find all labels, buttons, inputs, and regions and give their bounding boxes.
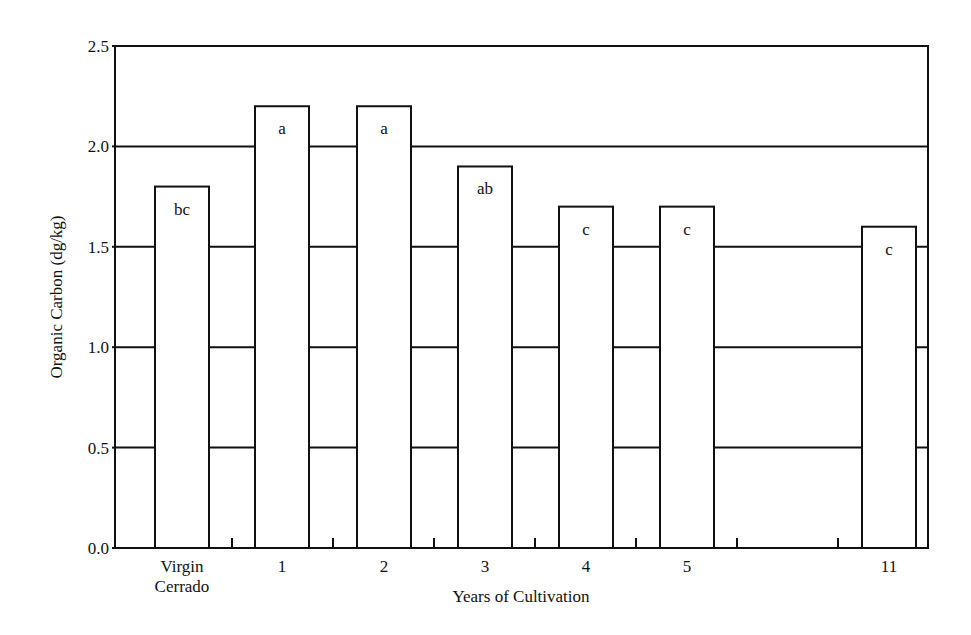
bar [559,207,613,548]
bar-significance-label: ab [477,179,493,198]
x-tick-label: Cerrado [155,577,210,596]
x-tick-label: 11 [881,557,897,576]
bar-group: c [862,227,916,548]
y-axis-title: Organic Carbon (dg/kg) [47,215,66,378]
y-axis-ticks: 0.00.51.01.52.02.5 [88,37,115,558]
x-tick-label: 5 [683,557,692,576]
plot-frame [115,46,928,548]
x-tick-label: Virgin [160,557,204,576]
y-tick-label: 0.5 [88,439,109,458]
x-axis-title: Years of Cultivation [452,587,590,606]
bar [357,106,411,548]
y-tick-label: 0.0 [88,539,109,558]
x-tick-label: 3 [481,557,490,576]
bar-group: a [357,106,411,548]
bars: bcaaabccc [155,106,916,548]
bar-group: bc [155,187,209,548]
bar-chart: bcaaabccc 0.00.51.01.52.02.5 VirginCerra… [0,0,971,635]
y-tick-label: 1.0 [88,338,109,357]
bar [660,207,714,548]
plot-border [115,46,928,548]
bar [458,166,512,548]
y-tick-label: 2.0 [88,137,109,156]
bar-significance-label: c [885,240,893,259]
bar-significance-label: bc [174,200,191,219]
bar-significance-label: c [683,220,691,239]
bar-group: c [559,207,613,548]
bar [862,227,916,548]
bar-group: a [255,106,309,548]
y-tick-label: 1.5 [88,238,109,257]
bar [155,187,209,548]
bar [255,106,309,548]
bar-significance-label: a [278,119,286,138]
x-tick-label: 1 [278,557,287,576]
y-tick-label: 2.5 [88,37,109,56]
x-tick-label: 2 [380,557,389,576]
bar-group: c [660,207,714,548]
bar-significance-label: c [582,220,590,239]
bar-significance-label: a [380,119,388,138]
x-tick-label: 4 [582,557,591,576]
gridlines [115,146,928,447]
bar-group: ab [458,166,512,548]
